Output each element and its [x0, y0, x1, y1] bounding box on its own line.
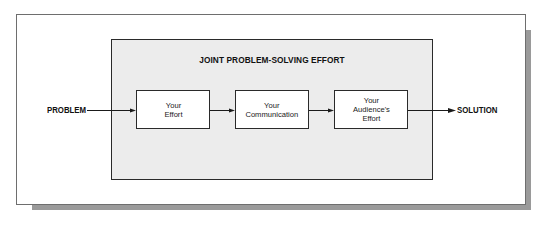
joint-effort-title: JOINT PROBLEM-SOLVING EFFORT: [124, 55, 420, 65]
step-label: Your Communication: [246, 101, 299, 119]
problem-label: PROBLEM: [47, 105, 86, 115]
step-label: Your Effort: [164, 101, 182, 119]
step-label: Your Audience's Effort: [353, 96, 390, 123]
step-your-effort: Your Effort: [136, 90, 210, 129]
step-audience-effort: Your Audience's Effort: [334, 90, 408, 129]
solution-label: SOLUTION: [457, 105, 497, 115]
step-your-communication: Your Communication: [235, 90, 309, 129]
frame-shadow-right: [526, 30, 531, 210]
frame-shadow-bottom: [32, 205, 531, 210]
